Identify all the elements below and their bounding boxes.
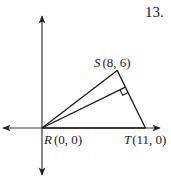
altitude-line (42, 87, 125, 128)
point-coords-R: (0, 0) (54, 132, 82, 147)
point-name-T: T (124, 132, 132, 147)
point-coords-T: (11, 0) (132, 132, 166, 147)
point-name-R: R (43, 132, 52, 147)
segment-RS (42, 70, 117, 128)
point-coords-S: (8, 6) (103, 55, 131, 70)
point-label-T: T(11, 0) (124, 132, 166, 147)
point-label-S: S(8, 6) (94, 55, 131, 70)
coordinate-diagram: 13. S(8, 6) R(0, 0) T(11, 0) (0, 0, 171, 178)
point-name-S: S (94, 55, 101, 70)
segment-ST (117, 70, 145, 128)
point-label-R: R(0, 0) (43, 132, 82, 147)
problem-number: 13. (145, 4, 164, 20)
